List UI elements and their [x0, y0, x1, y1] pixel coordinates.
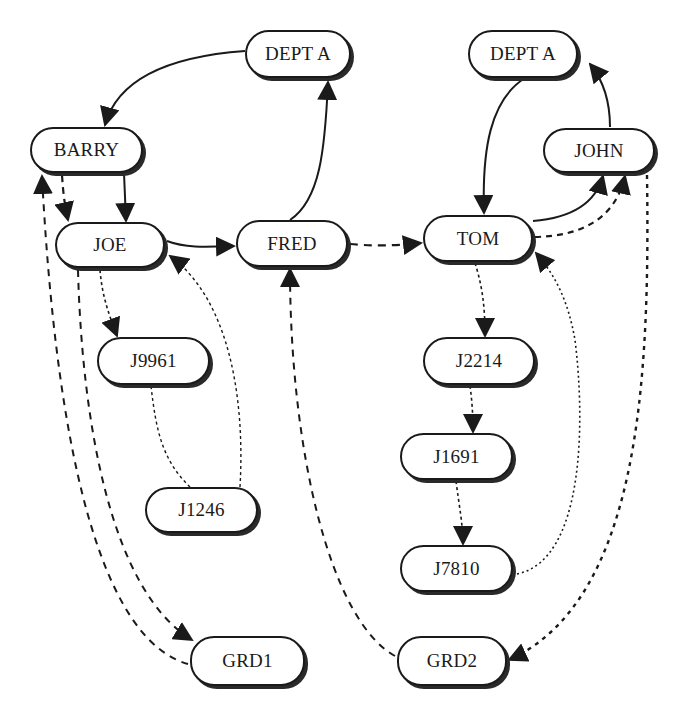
edge-john-to-dept-a-right — [590, 64, 610, 127]
edge-tom-to-john-solid — [533, 176, 603, 221]
node-tom[interactable]: TOM — [423, 215, 533, 262]
node-dept-a-left[interactable]: DEPT A — [245, 30, 351, 78]
node-dept-a-right[interactable]: DEPT A — [468, 30, 578, 78]
edge-j2214-to-j1691 — [470, 386, 473, 432]
node-j7810[interactable]: J7810 — [400, 545, 513, 592]
edge-fred-to-tom — [350, 243, 421, 245]
edge-barry-to-joe-solid — [124, 173, 126, 221]
node-john[interactable]: JOHN — [543, 128, 655, 173]
node-j2214[interactable]: J2214 — [423, 337, 535, 385]
edge-joe-to-grd1 — [78, 270, 192, 640]
edge-joe-to-j9961 — [100, 270, 117, 336]
edge-fred-to-dept-a-left — [290, 82, 328, 220]
node-j1246[interactable]: J1246 — [145, 487, 258, 533]
edge-tom-to-j2214 — [475, 263, 485, 336]
node-grd1[interactable]: GRD1 — [190, 636, 305, 686]
edge-barry-to-joe-dashed — [62, 175, 68, 220]
edge-dept-a-left-to-barry — [105, 51, 245, 125]
node-barry[interactable]: BARRY — [30, 127, 143, 173]
node-joe[interactable]: JOE — [55, 222, 165, 268]
node-j9961[interactable]: J9961 — [97, 337, 210, 385]
edge-j1691-to-j7810 — [456, 481, 463, 544]
edge-joe-to-fred — [167, 241, 234, 247]
edge-j7810-to-tom — [517, 253, 580, 574]
node-grd2[interactable]: GRD2 — [397, 636, 507, 686]
edge-j9961-to-j1246 — [151, 386, 190, 487]
edge-dept-a-right-to-tom — [484, 78, 525, 213]
node-fred[interactable]: FRED — [236, 220, 348, 267]
diagram-canvas: DEPT A BARRY JOE FRED DEPT A JOHN TOM J9… — [0, 0, 689, 722]
node-j1691[interactable]: J1691 — [400, 433, 513, 480]
edge-grd2-to-fred — [290, 269, 395, 656]
